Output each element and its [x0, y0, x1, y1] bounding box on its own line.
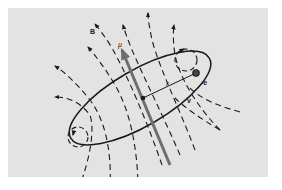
radius-label: r	[166, 80, 169, 88]
velocity-label: v	[187, 97, 191, 104]
radius-line	[143, 73, 196, 98]
current-loop	[57, 34, 224, 162]
charge-label: -e	[201, 79, 207, 86]
field-lines	[55, 13, 240, 190]
electron-dot	[193, 70, 199, 76]
center-dot	[141, 96, 145, 100]
moment-label: μ	[118, 41, 122, 49]
field-label: B	[90, 28, 95, 35]
magnetic-moment-arrow	[122, 50, 170, 165]
magnetic-dipole-diagram	[0, 0, 282, 190]
